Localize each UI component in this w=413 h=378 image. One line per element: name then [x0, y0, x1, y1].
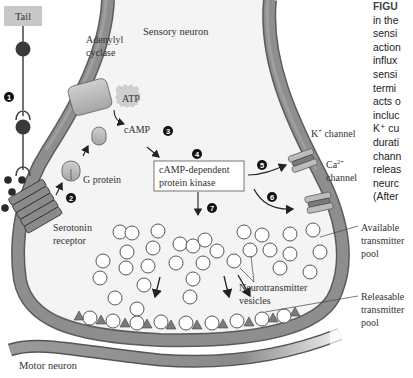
motor-neuron-label: Motor neuron: [19, 360, 78, 371]
svg-text:6: 6: [270, 193, 274, 202]
atp-label: ATP: [122, 93, 140, 104]
ca-channel-word: channel: [326, 172, 357, 183]
tail-interneuron: Tail: [4, 6, 42, 176]
svg-text:3: 3: [166, 127, 170, 136]
camp-label: cAMP: [124, 124, 151, 135]
caption-line: durati: [373, 136, 413, 150]
k-channel-label: K+ channel: [311, 127, 356, 139]
step-6: 6: [267, 192, 277, 202]
caption-line: FIGU: [373, 0, 413, 14]
step-5: 5: [257, 160, 267, 170]
svg-text:2: 2: [69, 194, 73, 203]
available-pool-label-3: pool: [361, 248, 379, 259]
serotonin-label-2: receptor: [53, 235, 86, 246]
caption-line: chann: [373, 150, 413, 164]
releasable-pool-label-3: pool: [361, 317, 379, 328]
vesicles-label-1: Neurotransmitter: [239, 282, 308, 293]
svg-text:1: 1: [7, 93, 11, 102]
serotonin-label-1: Serotonin: [53, 222, 92, 233]
step-3: 3: [163, 126, 173, 136]
caption-line: influx: [373, 54, 413, 68]
adenylyl-label-1: Adenylyl: [86, 34, 123, 45]
caption-line: K⁺ cu: [373, 122, 413, 136]
caption-line: acts o: [373, 95, 413, 109]
svg-text:5: 5: [260, 161, 264, 170]
step-4: 4: [192, 149, 202, 159]
adenylyl-label-2: cyclase: [86, 47, 116, 58]
caption-line: action: [373, 41, 413, 55]
available-pool-label-1: Available: [361, 222, 400, 233]
releasable-pool-label-1: Releasable: [361, 291, 405, 302]
tail-label: Tail: [15, 11, 31, 22]
caption-line: neurc: [373, 177, 413, 191]
sensitization-diagram: Tail: [0, 0, 413, 378]
pka-label-2: protein kinase: [159, 177, 216, 188]
pka-label-1: cAMP-dependent: [159, 164, 230, 175]
caption-line: (After: [373, 190, 413, 204]
caption-line: incluc: [373, 109, 413, 123]
releasable-pool-label-2: transmitter: [361, 304, 405, 315]
caption-line: sensi: [373, 68, 413, 82]
vesicles-label-2: vesicles: [239, 295, 271, 306]
available-pool-label-2: transmitter: [361, 235, 405, 246]
g-protein-label: G protein: [83, 174, 121, 185]
caption-line: termi: [373, 82, 413, 96]
step-7: 7: [207, 203, 217, 213]
svg-text:7: 7: [210, 204, 214, 213]
step-1: 1: [4, 92, 14, 102]
caption-line: releas: [373, 163, 413, 177]
caption-line: in the: [373, 14, 413, 28]
pka-box: cAMP-dependent protein kinase: [154, 161, 244, 191]
caption-line: sensi: [373, 27, 413, 41]
step-2: 2: [66, 193, 76, 203]
sensory-neuron-label: Sensory neuron: [143, 26, 209, 37]
ca-channel-label: Ca2+: [326, 158, 344, 170]
figure-caption: FIGU in the sensi action influx sensi te…: [373, 0, 413, 204]
